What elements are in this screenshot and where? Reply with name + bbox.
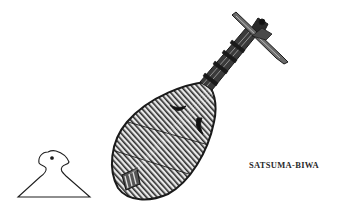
biwa-body [112, 82, 216, 199]
biwa-neck [200, 28, 256, 90]
caption-text: SATSUMA-BIWA [249, 160, 319, 170]
illustration [0, 0, 347, 213]
plectrum-drawing [18, 151, 90, 197]
